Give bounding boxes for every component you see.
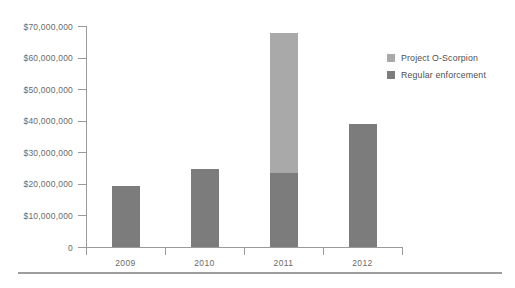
x-axis-tick: [402, 247, 403, 255]
bar-segment[interactable]: [270, 173, 298, 248]
bar-segment[interactable]: [112, 186, 140, 247]
chart-legend: Project O-ScorpionRegular enforcement: [387, 51, 515, 85]
y-axis-tick-label: $50,000,000: [24, 85, 73, 95]
legend-label: Regular enforcement: [401, 70, 486, 80]
y-axis-tick-label: $10,000,000: [24, 211, 73, 221]
bar-segment[interactable]: [191, 169, 219, 247]
bar-2012[interactable]: [349, 124, 377, 247]
x-axis-tick: [165, 247, 166, 255]
y-axis-tick-label: $60,000,000: [24, 53, 73, 63]
x-axis-tick: [244, 247, 245, 255]
plot-area: [86, 26, 402, 247]
bar-chart: 0$10,000,000$20,000,000$30,000,000$40,00…: [0, 0, 515, 288]
bar-2010[interactable]: [191, 169, 219, 247]
x-axis-label-2012: 2012: [323, 258, 403, 268]
bar-2009[interactable]: [112, 186, 140, 247]
legend-item[interactable]: Regular enforcement: [387, 68, 515, 82]
legend-swatch-icon: [387, 71, 395, 79]
footer-divider: [18, 272, 502, 274]
y-axis-tick-label: $70,000,000: [24, 22, 73, 32]
bar-segment[interactable]: [349, 124, 377, 247]
x-axis-tick: [323, 247, 324, 255]
y-axis-tick-label: $40,000,000: [24, 116, 73, 126]
legend-item[interactable]: Project O-Scorpion: [387, 51, 515, 65]
legend-label: Project O-Scorpion: [401, 53, 478, 63]
legend-swatch-icon: [387, 54, 395, 62]
y-axis-tick-label: $20,000,000: [24, 179, 73, 189]
y-axis-tick-label: 0: [68, 243, 73, 253]
x-axis-label-2009: 2009: [86, 258, 166, 268]
bar-segment[interactable]: [270, 33, 298, 173]
x-axis-label-2011: 2011: [244, 258, 324, 268]
x-axis-label-2010: 2010: [165, 258, 245, 268]
x-axis-tick: [86, 247, 87, 255]
bar-2011[interactable]: [270, 33, 298, 247]
y-axis-tick-label: $30,000,000: [24, 148, 73, 158]
